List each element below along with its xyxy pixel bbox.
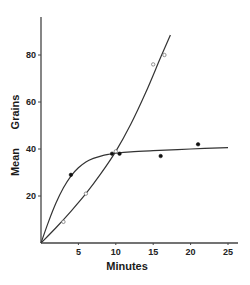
filled-circles-curve	[41, 148, 228, 243]
filled-data-point	[159, 154, 163, 158]
y-tick-label: 60	[26, 97, 36, 107]
filled-data-point	[118, 152, 122, 156]
y-axis-title-mean: Mean	[9, 148, 21, 176]
x-tick-label: 5	[76, 247, 81, 257]
open-data-point	[62, 220, 65, 223]
open-circles-curve	[41, 35, 170, 243]
y-tick-label: 80	[26, 50, 36, 60]
open-data-point	[114, 150, 117, 153]
filled-data-point	[196, 143, 200, 147]
y-tick-label: 20	[26, 191, 36, 201]
open-data-point	[163, 53, 166, 56]
y-tick-label: 40	[26, 144, 36, 154]
series-layer	[41, 35, 228, 243]
x-tick-label: 25	[223, 247, 233, 257]
x-tick-label: 15	[148, 247, 158, 257]
open-data-point	[84, 192, 87, 195]
y-ticks: 20406080	[26, 50, 41, 201]
chart: 20406080 510152025 Minutes Grains Mean	[0, 0, 250, 285]
x-axis-title: Minutes	[106, 260, 148, 272]
x-ticks: 510152025	[76, 243, 233, 257]
x-tick-label: 10	[111, 247, 121, 257]
open-data-point	[152, 63, 155, 66]
y-axis-title-grains: Grains	[9, 95, 21, 130]
x-tick-label: 20	[186, 247, 196, 257]
filled-data-point	[69, 173, 73, 177]
